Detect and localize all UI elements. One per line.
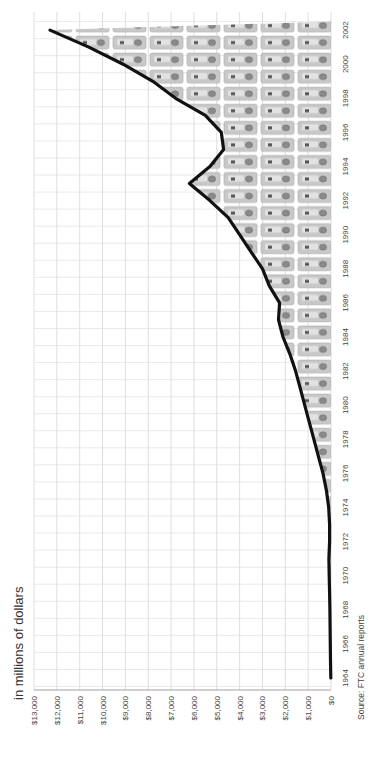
value-tick-label: $9,000 bbox=[121, 695, 130, 720]
value-axis-ticks: $0$1,000$2,000$3,000$4,000$5,000$6,000$7… bbox=[30, 695, 336, 724]
value-tick-label: $4,000 bbox=[236, 695, 245, 720]
value-tick-label: $6,000 bbox=[190, 695, 199, 720]
year-tick-label: 1974 bbox=[341, 498, 350, 516]
year-tick-label: 1998 bbox=[341, 89, 350, 107]
year-tick-label: 1964 bbox=[341, 669, 350, 687]
value-tick-label: $5,000 bbox=[213, 695, 222, 720]
value-tick-label: $8,000 bbox=[144, 695, 153, 720]
year-tick-label: 1994 bbox=[341, 157, 350, 175]
year-tick-label: 1980 bbox=[341, 396, 350, 414]
value-tick-label: $0 bbox=[327, 695, 336, 704]
year-tick-label: 1978 bbox=[341, 430, 350, 448]
year-tick-label: 1976 bbox=[341, 464, 350, 482]
year-tick-label: 1982 bbox=[341, 362, 350, 380]
year-tick-label: 2002 bbox=[341, 21, 350, 39]
value-tick-label: $2,000 bbox=[281, 695, 290, 720]
value-tick-label: $13,000 bbox=[30, 695, 39, 724]
year-axis-ticks: 1964196619681970197219741976197819801982… bbox=[341, 21, 350, 687]
rotated-area-chart: $0$1,000$2,000$3,000$4,000$5,000$6,000$7… bbox=[0, 0, 374, 759]
value-tick-label: $10,000 bbox=[99, 695, 108, 724]
value-tick-label: $12,000 bbox=[53, 695, 62, 724]
chart-title: in millions of dollars bbox=[11, 586, 26, 700]
value-tick-label: $3,000 bbox=[258, 695, 267, 720]
year-tick-label: 1972 bbox=[341, 532, 350, 550]
year-tick-label: 1984 bbox=[341, 328, 350, 346]
source-note: Source: FTC annual reports bbox=[356, 615, 366, 720]
year-tick-label: 1968 bbox=[341, 600, 350, 618]
value-tick-label: $7,000 bbox=[167, 695, 176, 720]
year-tick-label: 1996 bbox=[341, 123, 350, 141]
year-tick-label: 1988 bbox=[341, 259, 350, 277]
value-tick-label: $11,000 bbox=[76, 695, 85, 724]
year-tick-label: 1970 bbox=[341, 566, 350, 584]
value-tick-label: $1,000 bbox=[304, 695, 313, 720]
year-tick-label: 1966 bbox=[341, 634, 350, 652]
year-tick-label: 1992 bbox=[341, 191, 350, 209]
year-tick-label: 1986 bbox=[341, 293, 350, 311]
year-tick-label: 2000 bbox=[341, 55, 350, 73]
year-tick-label: 1990 bbox=[341, 225, 350, 243]
